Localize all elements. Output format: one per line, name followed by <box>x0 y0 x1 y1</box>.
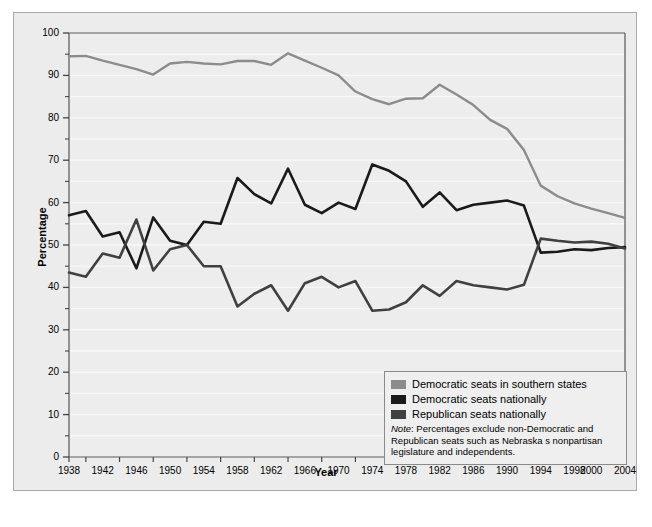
y-tick-90: 90 <box>29 69 59 80</box>
chart-frame: Percentage Year 0102030405060708090100 1… <box>13 12 637 491</box>
figure-container: Percentage Year 0102030405060708090100 1… <box>0 0 652 527</box>
legend-label-democratic: Democratic seats nationally <box>412 393 547 405</box>
legend-label-southern: Democratic seats in southern states <box>412 378 587 390</box>
legend-label-republican: Republican seats nationally <box>412 408 546 420</box>
legend-swatch-republican <box>391 410 406 419</box>
y-tick-60: 60 <box>29 197 59 208</box>
y-tick-20: 20 <box>29 366 59 377</box>
legend-note-text: : Percentages exclude non-Democratic and… <box>391 423 602 457</box>
legend-swatch-democratic <box>391 395 406 404</box>
legend-item-democratic: Democratic seats nationally <box>391 392 620 406</box>
x-tick-2004: 2004 <box>605 465 645 476</box>
y-tick-80: 80 <box>29 112 59 123</box>
y-tick-40: 40 <box>29 281 59 292</box>
legend-item-southern: Democratic seats in southern states <box>391 377 620 391</box>
chart-legend: Democratic seats in southern states Demo… <box>384 371 627 465</box>
legend-note-word: Note <box>391 423 411 434</box>
y-tick-30: 30 <box>29 324 59 335</box>
legend-item-republican: Republican seats nationally <box>391 407 620 421</box>
y-tick-70: 70 <box>29 154 59 165</box>
y-tick-50: 50 <box>29 239 59 250</box>
y-tick-10: 10 <box>29 409 59 420</box>
legend-swatch-southern <box>391 380 406 389</box>
y-tick-100: 100 <box>29 27 59 38</box>
y-tick-0: 0 <box>29 451 59 462</box>
legend-note: Note: Percentages exclude non-Democratic… <box>391 423 620 458</box>
